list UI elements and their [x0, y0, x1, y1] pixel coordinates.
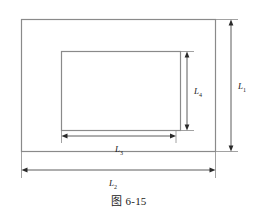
dimension-label-l4-subscript: 4 [199, 92, 202, 98]
dimension-label-l1-subscript: 1 [243, 87, 246, 93]
l2-arrowhead-left [22, 168, 28, 173]
dimension-label-l4: L4 [193, 86, 202, 98]
l4-arrowhead-bottom [185, 125, 190, 131]
outer-plate-rectangle [22, 20, 216, 152]
dimension-label-l3-subscript: 3 [120, 150, 123, 156]
l2-arrowhead-right [210, 168, 216, 173]
l3-arrowhead-right [170, 134, 176, 139]
l1-arrowhead-top [229, 20, 234, 26]
dimension-label-l2-subscript: 2 [114, 184, 117, 190]
l4-arrowhead-top [185, 52, 190, 58]
figure-caption: 图 6-15 [0, 192, 258, 208]
dimension-label-l1: L1 [237, 81, 246, 93]
l3-arrowhead-left [62, 134, 68, 139]
dimension-label-l2: L2 [108, 178, 117, 190]
figure-container: L1 L2 L3 [0, 0, 258, 216]
inner-hole-rectangle [62, 52, 181, 131]
dimension-label-l3: L3 [114, 144, 123, 156]
figure-drawing: L1 L2 L3 [0, 0, 258, 216]
l1-arrowhead-bottom [229, 146, 234, 152]
